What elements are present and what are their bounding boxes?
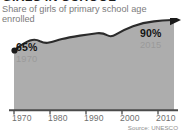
source-attribution: Source: UNESCO xyxy=(128,124,178,131)
callout-1970-year: 1970 xyxy=(16,53,37,64)
callout-2015-year: 2015 xyxy=(140,39,161,50)
x-tick-label-1990: 1990 xyxy=(84,113,104,123)
callout-1970: 65% 1970 xyxy=(16,42,37,64)
x-tick-label-2010: 2010 xyxy=(156,113,176,123)
callout-2015-value: 90% xyxy=(140,28,161,39)
x-tick-label-1970: 1970 xyxy=(12,113,32,123)
infographic-card: GIRLS IN SCHOOL Share of girls of primar… xyxy=(0,0,182,134)
x-tick-label-1980: 1980 xyxy=(48,113,68,123)
callout-1970-value: 65% xyxy=(16,42,37,53)
x-tick-label-2000: 2000 xyxy=(120,113,140,123)
end-arrow-marker xyxy=(170,18,181,25)
callout-2015: 90% 2015 xyxy=(140,28,161,50)
